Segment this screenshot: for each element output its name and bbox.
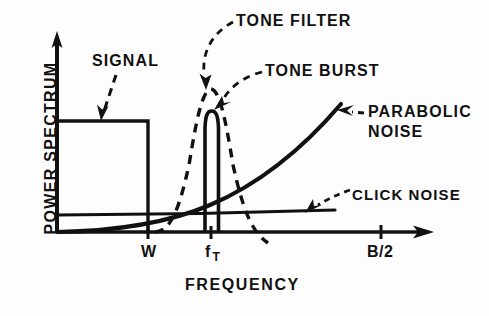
tone-filter-leader: [200, 22, 234, 90]
x-tick-label-ft-subscript: T: [212, 250, 220, 264]
x-tick-label-bhalf: B/2: [367, 243, 393, 261]
signal-leader: [97, 75, 116, 121]
annotation-click-noise: CLICK NOISE: [352, 186, 461, 203]
x-tick-label-ft-base: f: [205, 243, 211, 260]
annotation-parabolic-noise-line2: NOISE: [368, 123, 423, 141]
x-tick-label-w: W: [141, 243, 157, 261]
annotation-tone-filter: TONE FILTER: [236, 12, 352, 30]
annotation-tone-burst: TONE BURST: [265, 62, 380, 80]
tone-burst-leader: [214, 72, 262, 110]
annotation-parabolic-noise-line1: PARABOLIC: [368, 103, 472, 121]
y-axis-label: POWER SPECTRUM: [42, 48, 60, 248]
figure-drawing: [0, 0, 489, 316]
x-tick-label-ft: fT: [205, 243, 220, 261]
x-axis-label: FREQUENCY: [185, 276, 300, 294]
annotation-signal: SIGNAL: [92, 52, 159, 70]
power-spectrum-figure: POWER SPECTRUM FREQUENCY SIGNAL TONE FIL…: [0, 0, 489, 316]
